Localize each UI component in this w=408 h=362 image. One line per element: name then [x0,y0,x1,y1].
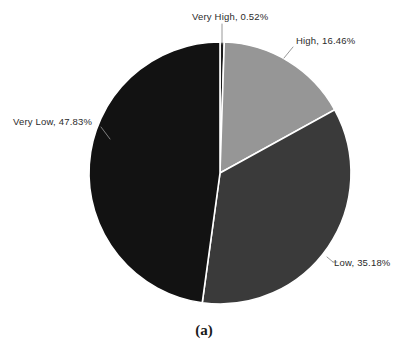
figure-caption: (a) [0,322,408,339]
pie-label-very-high: Very High, 0.52% [192,11,268,22]
pie-label-high: High, 16.46% [296,35,355,46]
pie-slices [89,42,351,304]
pie-chart-figure: Very High, 0.52% High, 16.46% Low, 35.18… [0,0,408,362]
pie-label-low: Low, 35.18% [334,257,391,268]
pie-slice-very-low[interactable] [89,42,220,303]
leader-line-low [327,257,333,262]
leader-line-high [284,47,293,58]
pie-label-very-low: Very Low, 47.83% [13,116,92,127]
pie-chart-canvas [0,0,408,362]
